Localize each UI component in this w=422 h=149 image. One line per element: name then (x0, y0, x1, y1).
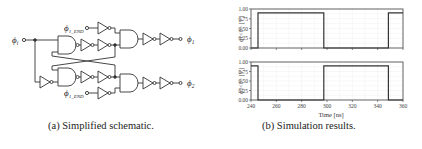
clock-generator-schematic: ϕi ϕ1_END ϕ1_END ϕ1 ϕ2 (0, 0, 210, 115)
svg-text:300: 300 (323, 103, 332, 109)
phi1-plot: 1.000.750.500.250.00 (238, 6, 403, 51)
svg-text:280: 280 (298, 103, 307, 109)
caption-a: (a) Simplified schematic. (48, 120, 154, 131)
schematic-panel: ϕi ϕ1_END ϕ1_END ϕ1 ϕ2 (0, 0, 210, 115)
svg-text:0.00: 0.00 (238, 45, 248, 51)
svg-text:260: 260 (272, 103, 281, 109)
svg-text:340: 340 (374, 103, 383, 109)
phi2-plot: 1.000.750.500.250.0024026028030032034036… (238, 59, 407, 109)
caption-b: (b) Simulation results. (262, 120, 356, 131)
top-y-axis-label: ϕ1<0> [V] (238, 16, 245, 42)
svg-text:1.00: 1.00 (238, 6, 248, 12)
input-label: ϕi (12, 35, 19, 46)
enable-top-label: ϕ1_END (64, 23, 84, 34)
svg-text:320: 320 (348, 103, 357, 109)
simulation-plots-panel: 1.000.750.500.250.00 1.000.750.500.250.0… (205, 0, 422, 125)
svg-text:360: 360 (399, 103, 408, 109)
output-phi1-label: ϕ1 (187, 34, 195, 45)
enable-bottom-label: ϕ1_END (64, 88, 84, 99)
bottom-y-axis-label: ϕ2<0> [V] (238, 68, 245, 94)
x-axis-label: Time [ns] (318, 111, 343, 119)
simulation-plots: 1.000.750.500.250.00 1.000.750.500.250.0… (205, 0, 422, 125)
svg-text:240: 240 (247, 103, 256, 109)
svg-text:1.00: 1.00 (238, 59, 248, 65)
output-phi2-label: ϕ2 (187, 78, 195, 89)
